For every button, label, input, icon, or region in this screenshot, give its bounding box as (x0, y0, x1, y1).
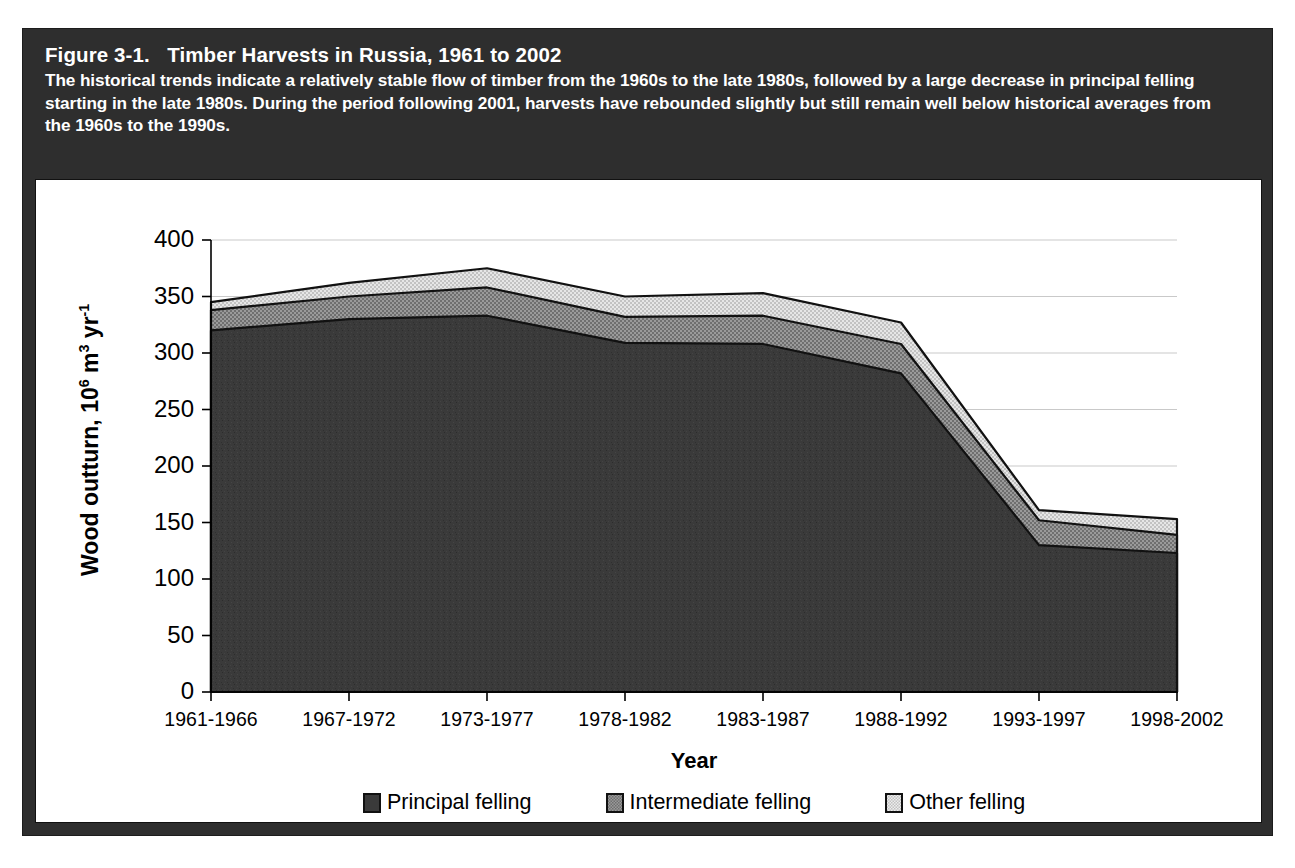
chart-series-areas (211, 268, 1177, 692)
x-tick-label-1993-1997: 1993-1997 (992, 708, 1085, 731)
legend-swatch-icon (606, 793, 624, 813)
x-tick-label-1983-1987: 1983-1987 (716, 708, 809, 731)
y-tick-label-50: 50 (108, 621, 194, 649)
y-tick-label-0: 0 (108, 677, 194, 705)
figure-caption: Figure 3-1. Timber Harvests in Russia, 1… (23, 29, 1272, 146)
y-tick-label-150: 150 (108, 508, 194, 536)
y-axis-title: Wood outturn, 106 m3 yr-1 (76, 210, 104, 670)
x-axis-title: Year (211, 748, 1177, 774)
legend-item-other-felling[interactable]: Other felling (885, 790, 1025, 815)
x-tick-label-1973-1977: 1973-1977 (440, 708, 533, 731)
legend-item-intermediate-felling[interactable]: Intermediate felling (606, 790, 812, 815)
y-tick-label-400: 400 (108, 225, 194, 253)
figure-caption-title: Figure 3-1. Timber Harvests in Russia, 1… (45, 43, 1250, 67)
x-tick-label-1967-1972: 1967-1972 (302, 708, 395, 731)
y-axis-title-sup-6: 6 (76, 379, 92, 387)
figure-frame: Figure 3-1. Timber Harvests in Russia, 1… (22, 28, 1273, 836)
y-tick-label-350: 350 (108, 282, 194, 310)
figure-page: Figure 3-1. Timber Harvests in Russia, 1… (0, 0, 1295, 868)
y-axis-title-prefix: Wood outturn, 10 (77, 387, 103, 576)
y-tick-label-300: 300 (108, 338, 194, 366)
x-tick-label-1998-2002: 1998-2002 (1130, 708, 1223, 731)
y-tick-label-100: 100 (108, 564, 194, 592)
y-axis-title-mid2: yr (77, 316, 103, 344)
legend-swatch-icon (885, 793, 903, 813)
y-tick-label-250: 250 (108, 395, 194, 423)
chart-card: Wood outturn, 106 m3 yr-1 05010015020025… (35, 179, 1262, 823)
figure-caption-body: The historical trends indicate a relativ… (45, 69, 1225, 136)
legend-label: Other felling (909, 790, 1025, 815)
legend-label: Principal felling (387, 790, 532, 815)
legend-swatch-icon (363, 793, 381, 813)
y-axis-title-mid: m (77, 352, 103, 379)
x-tick-label-1978-1982: 1978-1982 (578, 708, 671, 731)
y-tick-label-200: 200 (108, 451, 194, 479)
x-tick-label-1988-1992: 1988-1992 (854, 708, 947, 731)
y-axis-title-sup-3: 3 (76, 345, 92, 353)
x-tick-label-1961-1966: 1961-1966 (164, 708, 257, 731)
y-axis-title-sup-neg1: -1 (76, 304, 92, 317)
legend-label: Intermediate felling (630, 790, 812, 815)
chart-legend: Principal fellingIntermediate fellingOth… (211, 790, 1177, 815)
legend-item-principal-felling[interactable]: Principal felling (363, 790, 532, 815)
